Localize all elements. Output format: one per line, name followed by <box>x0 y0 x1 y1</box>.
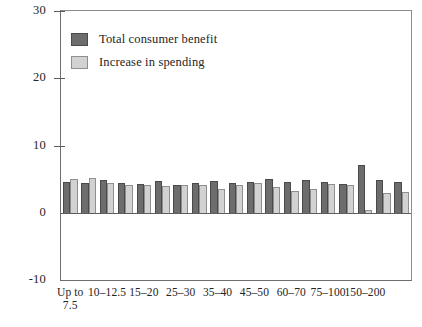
bar-benefit <box>192 183 199 213</box>
bar-spending <box>144 185 151 213</box>
y-axis: -100102030 <box>0 0 60 291</box>
bar-benefit <box>247 182 254 213</box>
bar-spending <box>365 210 372 213</box>
bar-benefit <box>394 182 401 213</box>
bar-benefit <box>155 181 162 213</box>
bar-benefit <box>376 180 383 212</box>
bar-benefit <box>81 183 88 213</box>
x-tick-label: 150–200 <box>344 286 385 299</box>
x-tick-label: 15–20 <box>129 286 158 299</box>
bar-spending <box>218 189 225 213</box>
legend-swatch-light <box>71 56 88 69</box>
chart-legend: Total consumer benefitIncrease in spendi… <box>71 29 217 75</box>
bar-spending <box>199 185 206 213</box>
x-tick-label: 75–100 <box>311 286 346 299</box>
bar-benefit <box>137 184 144 213</box>
bar-benefit <box>358 165 365 213</box>
bar-spending <box>162 186 169 213</box>
x-tick-label: Up to7.5 <box>57 286 83 312</box>
x-tick-label: 10–12.5 <box>88 286 126 299</box>
x-tick-label: 60–70 <box>277 286 306 299</box>
bar-benefit <box>339 184 346 213</box>
x-tick-label: 45–50 <box>240 286 269 299</box>
x-tick-label-line1: 10–12.5 <box>88 286 126 298</box>
bar-benefit <box>302 180 309 212</box>
x-tick-label-line1: 15–20 <box>129 286 158 298</box>
bar-spending <box>107 183 114 213</box>
y-tick-label: 20 <box>33 71 46 84</box>
bar-spending <box>347 185 354 213</box>
legend-label: Increase in spending <box>99 56 205 69</box>
bar-benefit <box>118 183 125 213</box>
legend-item: Increase in spending <box>71 52 217 72</box>
bar-benefit <box>100 180 107 212</box>
bar-spending <box>383 193 390 213</box>
x-tick-label-line1: Up to <box>57 286 83 298</box>
y-tick-label: -10 <box>29 273 46 286</box>
bar-spending <box>273 187 280 213</box>
bar-spending <box>254 183 261 213</box>
bar-spending <box>310 189 317 213</box>
bar-benefit <box>265 179 272 213</box>
bar-spending <box>402 192 409 213</box>
x-tick-label-line1: 25–30 <box>166 286 195 298</box>
bar-chart: -100102030 Total consumer benefitIncreas… <box>0 0 422 327</box>
bar-benefit <box>63 182 70 213</box>
legend-label: Total consumer benefit <box>99 33 217 46</box>
x-tick-label-line1: 45–50 <box>240 286 269 298</box>
x-tick-label: 25–30 <box>166 286 195 299</box>
bar-spending <box>89 178 96 212</box>
bar-benefit <box>284 182 291 213</box>
x-tick-label-line2: 7.5 <box>57 299 83 312</box>
y-tick-label: 0 <box>40 206 46 219</box>
x-axis: Up to7.510–12.515–2025–3035–4045–5060–70… <box>0 286 422 327</box>
x-tick-label-line1: 75–100 <box>311 286 346 298</box>
y-tick-label: 10 <box>33 139 46 152</box>
bar-spending <box>70 179 77 213</box>
x-tick-label-line1: 60–70 <box>277 286 306 298</box>
bar-spending <box>181 185 188 213</box>
x-tick-label-line1: 35–40 <box>203 286 232 298</box>
bar-spending <box>236 185 243 213</box>
bar-benefit <box>229 183 236 213</box>
bar-benefit <box>210 181 217 213</box>
bar-benefit <box>321 182 328 213</box>
legend-swatch-dark <box>71 33 88 46</box>
bar-spending <box>291 191 298 213</box>
bar-spending <box>125 185 132 213</box>
bar-spending <box>328 184 335 213</box>
y-tick-label: 30 <box>33 4 46 17</box>
x-tick-label-line1: 150–200 <box>344 286 385 298</box>
bar-benefit <box>173 185 180 213</box>
legend-item: Total consumer benefit <box>71 29 217 49</box>
x-tick-label: 35–40 <box>203 286 232 299</box>
